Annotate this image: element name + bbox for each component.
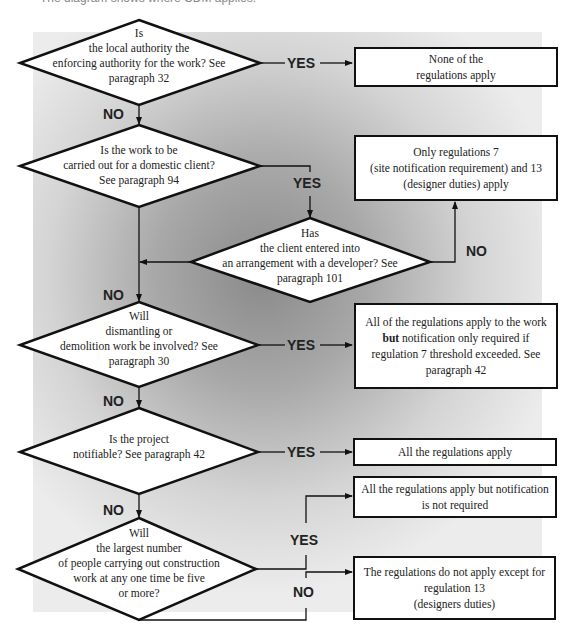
outcome-box-6: The regulations do not apply except for …	[353, 556, 556, 620]
label-no-6: NO	[293, 584, 314, 600]
outcome-box-4: All the regulations apply	[353, 438, 557, 466]
decision-5-text: Is the project notifiable? See paragraph…	[39, 432, 239, 462]
decision-6-text: Will the largest number of people carryi…	[39, 526, 239, 601]
decision-3-text: Has the client entered into an arrangeme…	[205, 226, 415, 286]
decision-4-text: Will dismantling or demolition work be i…	[39, 309, 239, 369]
label-yes-3: YES	[287, 337, 315, 353]
label-yes-1: YES	[287, 55, 315, 71]
bold-but: but	[383, 332, 400, 344]
outcome-box-3: All of the regulations apply to the work…	[354, 303, 558, 389]
decision-1-text: Is the local authority the enforcing aut…	[39, 26, 239, 86]
label-no-5: NO	[103, 502, 124, 518]
label-no-4: NO	[103, 393, 124, 409]
label-yes-4: YES	[287, 444, 315, 460]
label-yes-2: YES	[293, 175, 321, 191]
label-no-3: NO	[103, 287, 124, 303]
outcome-box-1: None of the regulations apply	[354, 47, 558, 87]
outcome-box-5: All the regulations apply but notificati…	[353, 476, 557, 518]
label-no-1: NO	[103, 106, 124, 122]
decision-2-text: Is the work to be carried out for a dome…	[39, 143, 239, 188]
label-yes-5: YES	[290, 532, 318, 548]
outcome-box-2: Only regulations 7 (site notification re…	[354, 135, 558, 201]
label-no-2: NO	[466, 243, 487, 259]
